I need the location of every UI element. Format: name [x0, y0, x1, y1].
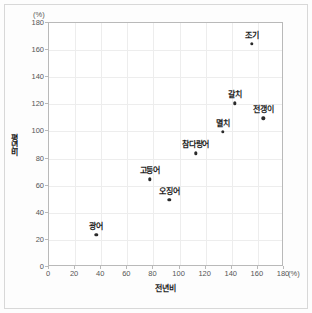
gridline-vertical — [232, 23, 233, 265]
x-axis-tick-mark — [126, 266, 127, 269]
x-axis-title: 전년비 — [48, 282, 283, 293]
gridline-vertical — [258, 23, 259, 265]
y-axis-tick-label: 160 — [31, 45, 44, 54]
data-point-label: 갈치 — [228, 88, 242, 99]
y-axis-title: 평년비 — [8, 134, 19, 155]
y-axis-tick-label: 100 — [31, 126, 44, 135]
gridline-horizontal — [49, 159, 282, 160]
gridline-horizontal — [49, 50, 282, 51]
gridline-horizontal — [49, 77, 282, 78]
y-axis-tick-mark — [45, 212, 48, 213]
data-point-label: 오징어 — [159, 185, 179, 196]
x-axis-tick-mark — [257, 266, 258, 269]
x-axis-tick-mark — [231, 266, 232, 269]
y-axis-tick-mark — [45, 158, 48, 159]
gridline-vertical — [153, 23, 154, 265]
y-axis-tick-mark — [45, 130, 48, 131]
x-axis-tick-mark — [283, 266, 284, 269]
gridline-horizontal — [49, 104, 282, 105]
y-axis-tick-label: 120 — [31, 99, 44, 108]
x-axis-unit: (%) — [288, 269, 300, 278]
y-axis-tick-label: 180 — [31, 18, 44, 27]
x-axis-tick-label: 40 — [96, 269, 104, 278]
data-point-label: 참다랑어 — [182, 138, 209, 149]
x-axis-tick-mark — [100, 266, 101, 269]
y-axis-tick-mark — [45, 49, 48, 50]
data-point-label: 멸치 — [216, 117, 230, 128]
x-axis-tick-label: 100 — [172, 269, 185, 278]
y-axis-tick-mark — [45, 22, 48, 23]
gridline-vertical — [127, 23, 128, 265]
y-axis-tick-mark — [45, 185, 48, 186]
y-axis-tick-mark — [45, 266, 48, 267]
y-axis-tick-label: 0 — [40, 262, 44, 271]
x-axis-tick-mark — [179, 266, 180, 269]
x-axis-tick-label: 80 — [148, 269, 156, 278]
y-axis-tick-label: 20 — [36, 234, 44, 243]
x-axis-tick-label: 180 — [277, 269, 290, 278]
y-axis-tick-label: 80 — [36, 153, 44, 162]
x-axis-tick-mark — [74, 266, 75, 269]
x-axis-tick-label: 140 — [225, 269, 238, 278]
y-axis-tick-mark — [45, 76, 48, 77]
y-axis-tick-mark — [45, 239, 48, 240]
x-axis-tick-label: 120 — [198, 269, 211, 278]
x-axis-tick-label: 160 — [251, 269, 264, 278]
y-axis-tick-mark — [45, 103, 48, 104]
x-axis-tick-mark — [205, 266, 206, 269]
scatter-chart-figure: (%) (%) 평년비 전년비 020406080100120140160180… — [0, 0, 312, 313]
data-point-label: 고등어 — [140, 164, 160, 175]
gridline-vertical — [75, 23, 76, 265]
data-point-label: 전갱이 — [253, 103, 273, 114]
y-axis-tick-label: 140 — [31, 72, 44, 81]
x-axis-tick-mark — [48, 266, 49, 269]
y-axis-tick-label: 60 — [36, 180, 44, 189]
x-axis-tick-label: 20 — [70, 269, 78, 278]
gridline-horizontal — [49, 213, 282, 214]
gridline-horizontal — [49, 240, 282, 241]
gridline-horizontal — [49, 131, 282, 132]
x-axis-tick-label: 60 — [122, 269, 130, 278]
y-axis-tick-label: 40 — [36, 207, 44, 216]
gridline-vertical — [180, 23, 181, 265]
data-point-label: 조기 — [245, 29, 259, 40]
plot-area — [48, 22, 283, 266]
x-axis-tick-mark — [152, 266, 153, 269]
data-point-label: 광어 — [89, 220, 103, 231]
x-axis-tick-label: 0 — [46, 269, 50, 278]
